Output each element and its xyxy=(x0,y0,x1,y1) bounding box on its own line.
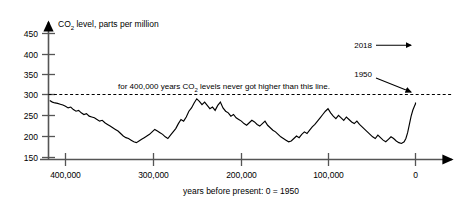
x-axis-title: years before present: 0 = 1950 xyxy=(183,186,299,196)
y-tick-label-150: 150 xyxy=(24,153,38,163)
annotation-arrow-1950 xyxy=(376,78,411,92)
chart-svg: 450 400 350 300 250 200 150 400,000 300,… xyxy=(0,0,467,206)
y-tick-label-400: 400 xyxy=(24,50,38,60)
x-tick-label-200000: 200,000 xyxy=(226,170,257,180)
co2-chart: 450 400 350 300 250 200 150 400,000 300,… xyxy=(0,0,467,206)
x-tick-label-400000: 400,000 xyxy=(50,170,81,180)
threshold-label-pre: for 400,000 years CO xyxy=(118,82,194,91)
y-tick-label-450: 450 xyxy=(24,29,38,39)
y-tick-label-250: 250 xyxy=(24,111,38,121)
threshold-label-post: levels never got higher than this line. xyxy=(198,82,330,91)
y-tick-label-350: 350 xyxy=(24,70,38,80)
co2-data-line xyxy=(50,99,416,144)
x-tick-label-0: 0 xyxy=(413,170,418,180)
y-axis-title-pre: CO xyxy=(58,19,71,29)
annotation-label-1950: 1950 xyxy=(354,70,372,79)
y-axis-title: CO2 level, parts per million xyxy=(58,19,159,31)
y-tick-label-200: 200 xyxy=(24,132,38,142)
y-axis-title-post: level, parts per million xyxy=(74,19,159,29)
x-tick-label-300000: 300,000 xyxy=(138,170,169,180)
x-tick-label-100000: 100,000 xyxy=(313,170,344,180)
annotation-label-2018: 2018 xyxy=(354,41,372,50)
y-tick-label-300: 300 xyxy=(24,90,38,100)
threshold-line-label: for 400,000 years CO2 levels never got h… xyxy=(118,82,330,93)
